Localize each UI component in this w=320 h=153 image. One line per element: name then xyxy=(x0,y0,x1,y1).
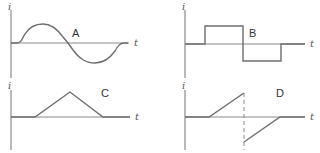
panel-d: i t D xyxy=(182,80,315,150)
ramp-up xyxy=(185,93,244,117)
panel-label-d: D xyxy=(276,87,284,99)
x-axis-label: t xyxy=(310,111,315,122)
y-axis-label: i xyxy=(182,80,185,91)
waveform-diagram: i t A i t B i t C i t D xyxy=(0,0,320,153)
panel-label-c: C xyxy=(101,87,109,99)
y-axis-label: i xyxy=(8,1,11,12)
y-axis-label: i xyxy=(182,1,185,12)
ramp-return xyxy=(244,117,305,142)
x-axis-label: t xyxy=(310,38,315,49)
triangle-wave xyxy=(11,92,130,117)
panel-a: i t A xyxy=(8,1,139,78)
panel-c: i t C xyxy=(8,80,140,150)
panel-label-b: B xyxy=(249,27,256,39)
panel-label-a: A xyxy=(72,27,80,39)
x-axis-label: t xyxy=(135,111,140,122)
panel-b: i t B xyxy=(182,1,315,78)
y-axis-label: i xyxy=(8,80,11,91)
x-axis-label: t xyxy=(134,37,139,48)
